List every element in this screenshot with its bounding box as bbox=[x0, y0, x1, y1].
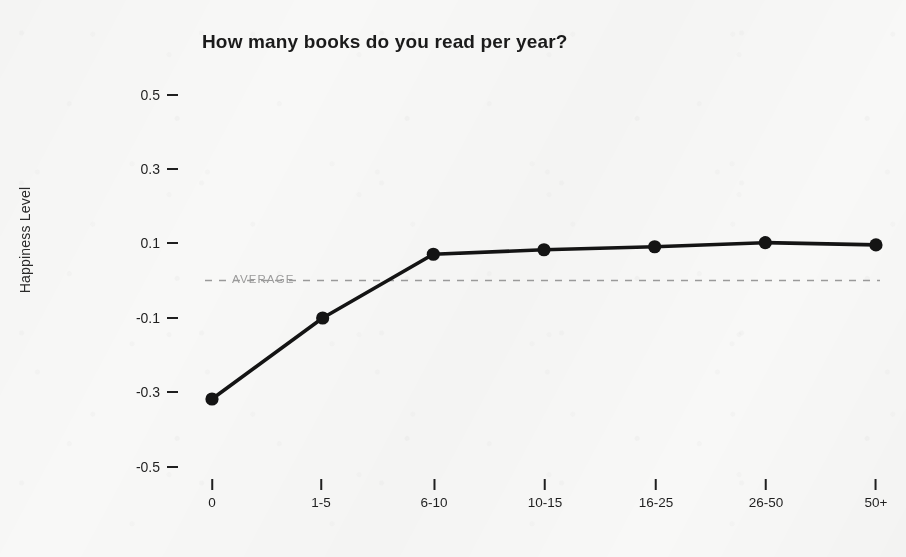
x-tick-5: 26-50 bbox=[749, 479, 784, 510]
x-tick-4: 16-25 bbox=[639, 479, 674, 510]
x-tick-label: 0 bbox=[208, 495, 216, 510]
x-tick-mark-icon bbox=[765, 479, 767, 490]
x-tick-mark-icon bbox=[655, 479, 657, 490]
x-tick-mark-icon bbox=[875, 479, 877, 490]
x-tick-mark-icon bbox=[544, 479, 546, 490]
x-tick-2: 6-10 bbox=[420, 479, 447, 510]
x-tick-mark-icon bbox=[211, 479, 213, 490]
chart-page: How many books do you read per year? Hap… bbox=[0, 0, 906, 557]
x-tick-1: 1-5 bbox=[311, 479, 331, 510]
x-tick-label: 1-5 bbox=[311, 495, 331, 510]
x-tick-6: 50+ bbox=[865, 479, 888, 510]
x-tick-label: 6-10 bbox=[420, 495, 447, 510]
x-tick-label: 26-50 bbox=[749, 495, 784, 510]
x-tick-mark-icon bbox=[433, 479, 435, 490]
x-tick-0: 0 bbox=[208, 479, 216, 510]
x-axis: 0 1-5 6-10 10-15 16-25 26-50 50+ bbox=[0, 0, 906, 557]
x-tick-label: 16-25 bbox=[639, 495, 674, 510]
x-tick-3: 10-15 bbox=[528, 479, 563, 510]
x-tick-label: 50+ bbox=[865, 495, 888, 510]
x-tick-label: 10-15 bbox=[528, 495, 563, 510]
x-tick-mark-icon bbox=[320, 479, 322, 490]
